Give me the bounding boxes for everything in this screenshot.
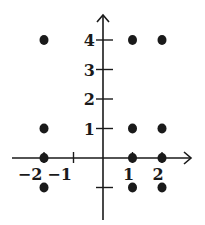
x-tick-label: 1 [123,165,134,184]
data-point [40,35,49,45]
tick-labels: −2−1121234 [18,31,164,184]
data-point [128,183,137,193]
data-point [158,124,167,134]
x-tick-label: −2 [18,165,43,184]
data-point [128,35,137,45]
data-point [158,183,167,193]
data-point [40,124,49,134]
y-tick-label: 3 [84,61,95,80]
y-tick-label: 4 [84,31,95,50]
data-point [128,153,137,163]
y-tick-label: 1 [84,120,95,139]
data-point [158,35,167,45]
data-point [40,153,49,163]
scatter-plot: −2−1121234 [0,0,205,225]
x-tick-label: 2 [152,165,163,184]
plot-canvas: −2−1121234 [0,0,205,225]
data-point [40,183,49,193]
x-tick-label: −1 [47,165,72,184]
y-tick-label: 2 [84,90,95,109]
data-point [158,153,167,163]
data-point [128,124,137,134]
